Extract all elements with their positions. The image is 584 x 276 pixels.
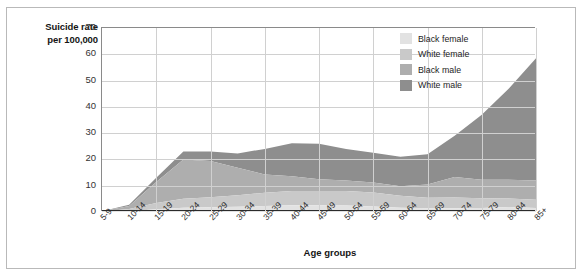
legend-item-label: White male	[418, 80, 462, 90]
gridline-vertical	[373, 28, 374, 211]
figure-container: Suicide rate per 100,000 010203040506070…	[0, 0, 584, 276]
legend-item-label: Black female	[418, 34, 468, 44]
gridline-vertical	[536, 28, 537, 211]
y-axis-title: Suicide rate per 100,000	[16, 21, 98, 46]
legend-item: White male	[400, 78, 520, 94]
x-axis-title-text: Age groups	[304, 247, 357, 258]
legend-item: Black male	[400, 62, 520, 78]
gridline-vertical	[156, 28, 157, 211]
chart-legend: Black femaleWhite femaleBlack maleWhite …	[400, 31, 520, 93]
legend-swatch-icon	[400, 80, 412, 91]
y-axis-title-line-2: per 100,000	[16, 34, 98, 47]
gridline-vertical	[265, 28, 266, 211]
legend-swatch-icon	[400, 33, 412, 44]
legend-item-label: White female	[418, 49, 469, 59]
legend-swatch-icon	[400, 49, 412, 60]
legend-item-label: Black male	[418, 65, 461, 75]
legend-swatch-icon	[400, 64, 412, 75]
legend-item: Black female	[400, 31, 520, 47]
gridline-vertical	[319, 28, 320, 211]
legend-item: White female	[400, 47, 520, 63]
gridline-vertical	[211, 28, 212, 211]
y-axis-title-line-1: Suicide rate	[16, 21, 98, 34]
x-axis-title: Age groups	[0, 247, 584, 258]
